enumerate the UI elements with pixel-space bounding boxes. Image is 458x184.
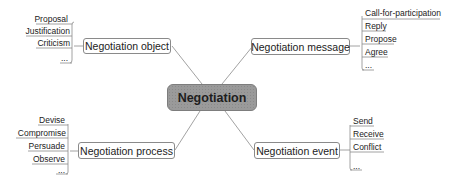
- leaf-observe[interactable]: Observe: [33, 154, 65, 164]
- leaf-proposal[interactable]: Proposal: [34, 14, 68, 24]
- branch-label: Negotiation object: [85, 40, 169, 52]
- leaf-more[interactable]: ...: [58, 165, 65, 175]
- branch-negotiation-process[interactable]: Negotiation process: [78, 142, 175, 159]
- branch-negotiation-event[interactable]: Negotiation event: [254, 142, 340, 159]
- leaf-compromise[interactable]: Compromise: [18, 128, 66, 138]
- leaf-justification[interactable]: Justification: [26, 26, 70, 36]
- leaf-criticism[interactable]: Criticism: [37, 38, 70, 48]
- leaf-persuade[interactable]: Persuade: [29, 141, 65, 151]
- branch-label: Negotiation event: [256, 145, 338, 157]
- central-topic-label: Negotiation: [178, 91, 247, 105]
- leaf-devise[interactable]: Devise: [39, 115, 65, 125]
- leaf-call-for-participation[interactable]: Call-for-participation: [365, 8, 441, 18]
- leaf-agree[interactable]: Agree: [365, 47, 388, 57]
- branch-label: Negotiation message: [251, 41, 350, 53]
- leaf-propose[interactable]: Propose: [365, 34, 397, 44]
- leaf-send[interactable]: Send: [353, 116, 373, 126]
- leaf-receive[interactable]: Receive: [353, 129, 384, 139]
- central-topic-negotiation[interactable]: Negotiation: [167, 84, 257, 111]
- branch-negotiation-message[interactable]: Negotiation message: [251, 38, 350, 55]
- leaf-reply[interactable]: Reply: [365, 21, 387, 31]
- leaf-more[interactable]: ...: [61, 53, 68, 63]
- branch-negotiation-object[interactable]: Negotiation object: [83, 38, 171, 54]
- leaf-more[interactable]: ...: [353, 161, 360, 171]
- branch-label: Negotiation process: [80, 145, 173, 157]
- leaf-more[interactable]: ...: [365, 60, 372, 70]
- leaf-conflict[interactable]: Conflict: [353, 142, 381, 152]
